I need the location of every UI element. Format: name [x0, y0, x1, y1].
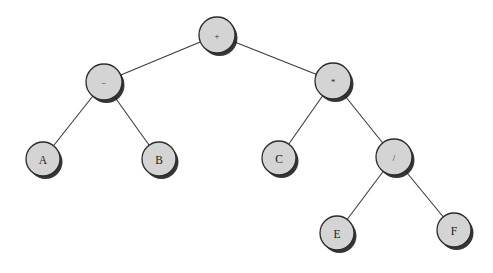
expression-tree-diagram: +−*ABC/EF — [0, 0, 493, 273]
node-label: F — [451, 225, 457, 237]
tree-node-c[interactable]: C — [262, 141, 299, 178]
node-label: C — [275, 153, 283, 165]
tree-node-e[interactable]: E — [320, 216, 357, 253]
node-label: + — [215, 31, 220, 41]
node-label: − — [102, 78, 107, 88]
nodes-layer: +−*ABC/EF — [26, 17, 474, 253]
tree-node-times[interactable]: * — [315, 63, 354, 102]
tree-node-div[interactable]: / — [376, 139, 415, 178]
node-label: A — [39, 154, 48, 166]
tree-node-plus[interactable]: + — [199, 17, 238, 56]
tree-node-b[interactable]: B — [142, 142, 179, 179]
node-label: * — [331, 77, 335, 87]
node-label: E — [333, 228, 340, 240]
tree-node-f[interactable]: F — [437, 213, 474, 250]
tree-node-a[interactable]: A — [26, 142, 63, 179]
node-label: B — [155, 154, 163, 166]
tree-canvas: +−*ABC/EF — [0, 0, 493, 273]
